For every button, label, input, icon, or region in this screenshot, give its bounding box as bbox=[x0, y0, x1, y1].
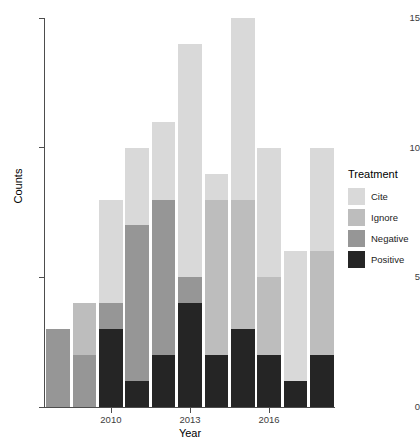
bar-segment-2018-ignore bbox=[310, 251, 334, 355]
bar-2012 bbox=[152, 122, 176, 407]
bar-segment-2011-cite bbox=[125, 148, 149, 226]
legend-swatch-positive bbox=[348, 251, 365, 268]
bar-segment-2011-negative bbox=[125, 225, 149, 381]
y-tick-label-5: 5 bbox=[386, 271, 420, 282]
y-tick-10 bbox=[39, 147, 44, 148]
bar-2009 bbox=[73, 303, 97, 407]
bar-2018 bbox=[310, 148, 334, 407]
legend-swatch-cite bbox=[348, 188, 365, 205]
x-tick-2010 bbox=[111, 408, 112, 413]
y-tick-label-10: 10 bbox=[386, 142, 420, 153]
legend-swatch-ignore bbox=[348, 209, 365, 226]
x-tick-2013 bbox=[190, 408, 191, 413]
legend-item-positive[interactable]: Positive bbox=[348, 249, 420, 270]
bar-segment-2012-positive bbox=[152, 355, 176, 407]
bar-2017 bbox=[284, 251, 308, 407]
x-tick-2016 bbox=[269, 408, 270, 413]
legend-label-cite: Cite bbox=[371, 191, 388, 202]
bar-segment-2016-ignore bbox=[257, 277, 281, 355]
bar-2013 bbox=[178, 44, 202, 407]
bar-segment-2014-ignore bbox=[205, 200, 229, 356]
bar-segment-2016-cite bbox=[257, 148, 281, 278]
bar-segment-2015-cite bbox=[231, 18, 255, 200]
bar-segment-2009-negative bbox=[73, 355, 97, 407]
legend-label-positive: Positive bbox=[371, 254, 404, 265]
bar-segment-2010-negative bbox=[99, 303, 123, 329]
bar-segment-2013-positive bbox=[178, 303, 202, 407]
bar-2014 bbox=[205, 174, 229, 407]
bar-segment-2012-negative bbox=[152, 200, 176, 356]
bar-segment-2010-cite bbox=[99, 200, 123, 304]
legend-label-negative: Negative bbox=[371, 233, 409, 244]
bar-segment-2011-positive bbox=[125, 381, 149, 407]
legend-label-ignore: Ignore bbox=[371, 212, 398, 223]
y-axis-title: Counts bbox=[12, 146, 24, 226]
bar-2011 bbox=[125, 148, 149, 407]
bar-segment-2015-positive bbox=[231, 329, 255, 407]
bar-segment-2012-cite bbox=[152, 122, 176, 200]
x-tick-label-2010: 2010 bbox=[91, 414, 131, 425]
bar-segment-2014-positive bbox=[205, 355, 229, 407]
y-tick-label-0: 0 bbox=[386, 401, 420, 412]
bar-2016 bbox=[257, 148, 281, 407]
bar-2010 bbox=[99, 200, 123, 407]
x-tick-label-2016: 2016 bbox=[249, 414, 289, 425]
bar-segment-2017-positive bbox=[284, 381, 308, 407]
y-tick-label-15: 15 bbox=[386, 12, 420, 23]
bar-2008 bbox=[46, 329, 70, 407]
legend-title: Treatment bbox=[348, 168, 420, 180]
bar-segment-2009-ignore bbox=[73, 303, 97, 355]
bar-segment-2013-cite bbox=[178, 44, 202, 277]
legend: Treatment CiteIgnoreNegativePositive bbox=[348, 168, 420, 270]
legend-swatch-negative bbox=[348, 230, 365, 247]
bar-segment-2017-cite bbox=[284, 251, 308, 381]
bar-segment-2015-ignore bbox=[231, 200, 255, 330]
x-tick-label-2013: 2013 bbox=[170, 414, 210, 425]
bar-segment-2014-cite bbox=[205, 174, 229, 200]
legend-item-ignore[interactable]: Ignore bbox=[348, 207, 420, 228]
plot-area bbox=[45, 18, 335, 407]
bar-segment-2018-positive bbox=[310, 355, 334, 407]
legend-item-negative[interactable]: Negative bbox=[348, 228, 420, 249]
y-tick-5 bbox=[39, 277, 44, 278]
x-axis-title: Year bbox=[45, 427, 335, 439]
bar-segment-2018-cite bbox=[310, 148, 334, 252]
bar-2015 bbox=[231, 18, 255, 407]
bar-segment-2008-negative bbox=[46, 329, 70, 407]
legend-entries: CiteIgnoreNegativePositive bbox=[348, 186, 420, 270]
bar-segment-2016-positive bbox=[257, 355, 281, 407]
y-tick-15 bbox=[39, 18, 44, 19]
stacked-bar-chart: Counts 051015 201020132016 Year Treatmen… bbox=[0, 0, 420, 447]
bar-segment-2013-negative bbox=[178, 277, 202, 303]
bar-segment-2010-positive bbox=[99, 329, 123, 407]
legend-item-cite[interactable]: Cite bbox=[348, 186, 420, 207]
